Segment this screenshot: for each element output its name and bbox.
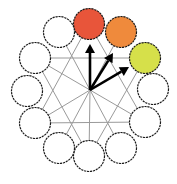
highlighted-node-1 bbox=[106, 17, 137, 48]
node-7 bbox=[44, 133, 75, 164]
node-11 bbox=[44, 17, 75, 48]
highlighted-node-0 bbox=[74, 9, 105, 40]
node-5 bbox=[106, 133, 137, 164]
arrowhead-icon bbox=[85, 44, 95, 53]
node-9 bbox=[12, 76, 43, 107]
node-4 bbox=[130, 107, 161, 138]
circle-diagram bbox=[0, 0, 177, 184]
highlighted-node-2 bbox=[130, 43, 161, 74]
node-6 bbox=[74, 141, 105, 172]
node-10 bbox=[20, 43, 51, 74]
node-3 bbox=[138, 74, 169, 105]
node-8 bbox=[20, 108, 51, 139]
diagram-canvas bbox=[0, 0, 177, 184]
